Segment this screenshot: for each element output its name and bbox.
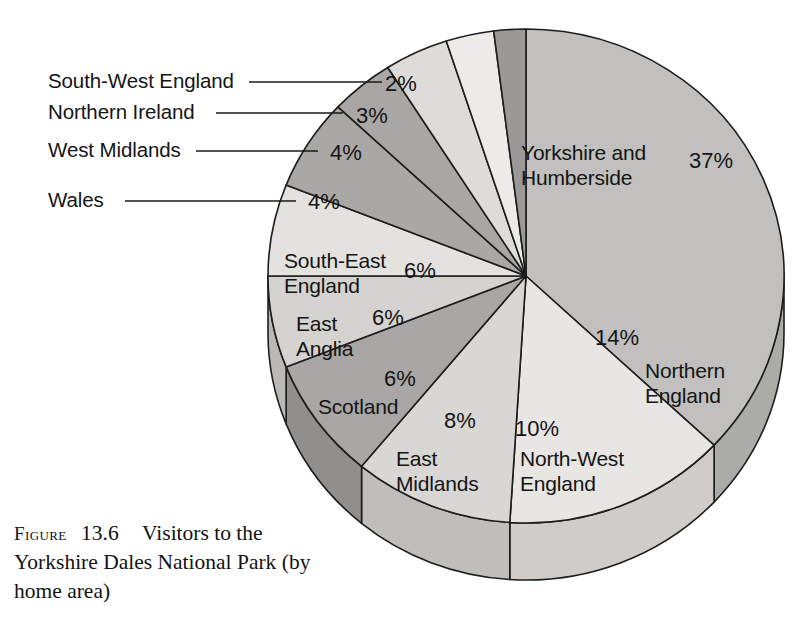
pie-percent-north-west-england: 10% [515, 416, 559, 441]
caption-figure-number: 13.6 [81, 521, 119, 545]
pie-slice-label-scotland: Scotland [318, 395, 398, 418]
pie-percent-northern-ireland: 3% [356, 103, 388, 128]
figure-root: Yorkshire andHumberside37%NorthernEnglan… [0, 0, 811, 627]
pie-percent-wales: 4% [308, 189, 340, 214]
callout-label-south-west-england: South-West England [48, 69, 234, 92]
pie-percent-northern-england: 14% [595, 325, 639, 350]
pie-percent-south-west-england: 2% [385, 71, 417, 96]
pie-percent-scotland: 6% [384, 366, 416, 391]
pie-percent-south-east-england: 6% [404, 258, 436, 283]
pie-percent-east-anglia: 6% [372, 305, 404, 330]
pie-percent-west-midlands: 4% [330, 140, 362, 165]
figure-caption: Figure 13.6 Visitors to the Yorkshire Da… [14, 519, 344, 606]
callout-label-wales: Wales [48, 188, 104, 211]
callout-label-west-midlands: West Midlands [48, 138, 181, 161]
pie-percent-east-midlands: 8% [444, 408, 476, 433]
callout-label-northern-ireland: Northern Ireland [48, 100, 195, 123]
caption-figure-word: Figure [14, 523, 67, 544]
pie-percent-yorkshire-and-humberside: 37% [689, 148, 733, 173]
